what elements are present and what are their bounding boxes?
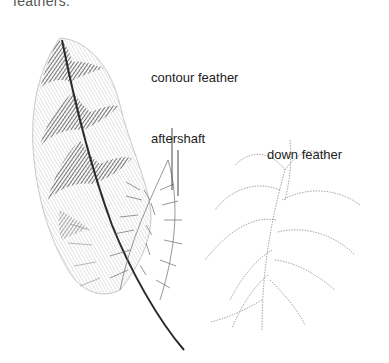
feather-illustration xyxy=(0,0,389,363)
label-down-feather: down feather xyxy=(267,147,342,162)
label-contour-feather: contour feather xyxy=(151,70,238,85)
label-aftershaft: aftershaft xyxy=(151,131,205,146)
down-feather xyxy=(205,140,360,330)
